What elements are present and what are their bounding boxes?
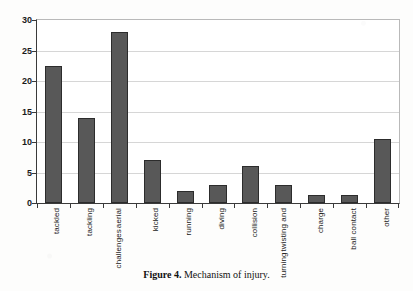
page-background: 051015202530 tackledtacklingchallengesae… [0,0,413,291]
x-axis-category-label: collision [251,208,260,237]
x-axis-category-line: running [184,208,193,235]
bar [144,160,161,203]
bar [308,195,325,203]
x-axis-category-line: tackling [85,208,94,236]
x-axis-category-line: tackled [52,208,61,234]
bar-series [37,20,399,203]
y-axis-tick-label: 30 [6,16,32,25]
bar [242,166,259,203]
x-axis-category-label: ball contact [350,208,359,250]
x-axis-category-line: collision [250,208,259,237]
x-axis-category-line: twisting and [280,208,289,251]
x-axis-category-label: tackled [53,208,62,234]
y-axis-tick-label: 5 [6,168,32,177]
bar [111,32,128,203]
x-axis-category-label: kicked [152,208,161,231]
x-axis-category-line: aerial [115,208,124,228]
y-axis-tick-label: 20 [6,77,32,86]
bar [78,118,95,203]
figure-caption: Figure 4. Mechanism of injury. [0,269,413,280]
x-axis-category-line: ball contact [349,208,358,250]
bar [209,185,226,203]
x-axis-category-line: diving [217,208,226,230]
x-axis-category-line: challenges [115,229,124,268]
x-axis-category-label: other [383,208,392,227]
x-axis-category-line: kicked [151,208,160,231]
y-axis-tick-label: 25 [6,46,32,55]
figure-4: 051015202530 tackledtacklingchallengesae… [0,0,413,291]
x-axis-labels: tackledtacklingchallengesaerialkickedrun… [37,208,399,266]
bar [275,185,292,203]
x-axis-category-label: turningtwisting and [280,208,289,278]
bar [341,195,358,203]
y-axis: 051015202530 [4,19,32,204]
y-axis-tick-label: 0 [6,199,32,208]
x-axis-category-line: charge [316,208,325,233]
figure-caption-label: Figure 4. [143,269,181,280]
x-axis-category-label: tackling [86,208,95,236]
y-axis-tick-label: 15 [6,107,32,116]
bar [45,66,62,203]
y-axis-tick-label: 10 [6,138,32,147]
bar [177,191,194,203]
x-axis-category-line: other [382,208,391,227]
bar [374,139,391,203]
x-axis-category-label: diving [218,208,227,230]
figure-caption-text: Mechanism of injury. [181,269,269,280]
x-axis-category-label: running [185,208,194,235]
x-axis-category-label: charge [317,208,326,233]
x-axis-category-label: challengesaerial [115,208,124,268]
